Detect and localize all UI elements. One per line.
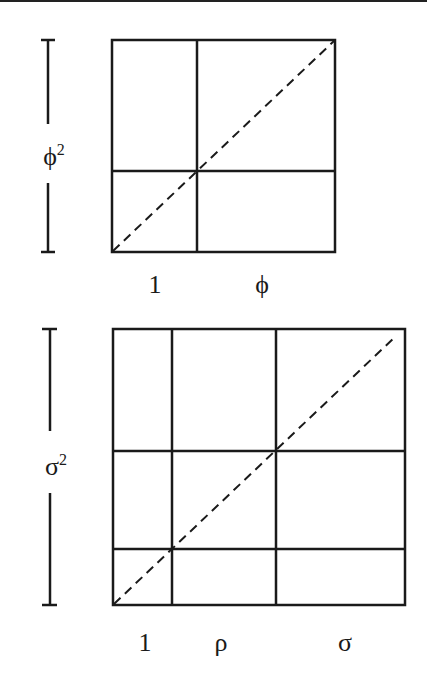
bottom-label-1: 1 bbox=[139, 630, 152, 656]
top-label-1: 1 bbox=[149, 272, 162, 298]
diagram-canvas bbox=[0, 0, 427, 680]
exponent: 2 bbox=[57, 141, 65, 158]
top-label-phi: ϕ bbox=[255, 272, 269, 298]
sigma-symbol: σ bbox=[45, 452, 59, 481]
exponent: 2 bbox=[59, 451, 67, 468]
bottom-label-rho: ρ bbox=[215, 630, 228, 656]
phi-symbol: ϕ bbox=[43, 142, 57, 171]
bottom-label-sigma: σ bbox=[338, 630, 352, 656]
bottom-side-label: σ2 bbox=[45, 447, 67, 480]
bottom-diagonal bbox=[114, 336, 396, 604]
top-diagonal bbox=[113, 41, 334, 251]
top-side-label: ϕ2 bbox=[43, 137, 65, 170]
